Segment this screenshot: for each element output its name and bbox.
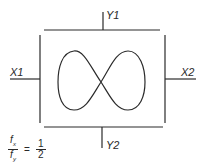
label-y2: Y2 xyxy=(106,139,119,151)
lissajous-figure-eight xyxy=(58,51,145,110)
fx-over-fy: fx fy xyxy=(8,135,18,164)
label-x1: X1 xyxy=(10,66,23,78)
fx-label: fx xyxy=(10,135,16,149)
frequency-ratio: fx fy = 1 2 xyxy=(8,135,46,164)
equals-sign: = xyxy=(24,144,30,155)
label-x2: X2 xyxy=(181,66,194,78)
fy-label: fy xyxy=(10,150,16,164)
ratio-value: 1 2 xyxy=(36,139,46,160)
label-y1: Y1 xyxy=(106,9,119,21)
